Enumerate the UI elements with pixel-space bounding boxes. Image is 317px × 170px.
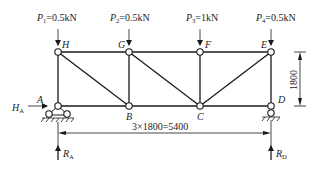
reaction-label-HA: HA: [11, 102, 24, 114]
reaction-label-RD: RD: [275, 148, 287, 160]
node-H: [55, 49, 61, 55]
node-G: [126, 49, 132, 55]
node-label-H: H: [61, 39, 70, 50]
height-dimension-label: 1800: [288, 70, 299, 90]
diagonal-EC: [200, 52, 271, 106]
load-label-P3: P3=1kN: [185, 12, 218, 24]
span-dimension-label: 3×1800=5400: [132, 121, 188, 132]
load-label-P1: P1=0.5kN: [36, 12, 77, 24]
truss-members: [58, 52, 271, 106]
reaction-label-RA: RA: [62, 148, 74, 160]
load-arrows: [58, 29, 271, 45]
load-label-P2: P2=0.5kN: [109, 12, 150, 24]
diagonal-HB: [58, 52, 129, 106]
truss-diagram: P1=0.5kN P2=0.5kN P3=1kN P4=0.5kN H: [0, 0, 317, 170]
node-label-D: D: [277, 94, 286, 105]
node-label-F: F: [204, 39, 212, 50]
node-C: [197, 103, 203, 109]
roller-support-D: [262, 110, 280, 121]
node-label-E: E: [260, 39, 267, 50]
node-label-A: A: [36, 94, 44, 105]
load-label-P4: P4=0.5kN: [255, 12, 296, 24]
node-D: [268, 103, 274, 109]
node-F: [197, 49, 203, 55]
node-label-C: C: [197, 111, 204, 122]
node-A: [55, 103, 61, 109]
diagonal-GC: [129, 52, 200, 106]
node-E: [268, 49, 274, 55]
node-label-G: G: [118, 39, 125, 50]
node-B: [126, 103, 132, 109]
